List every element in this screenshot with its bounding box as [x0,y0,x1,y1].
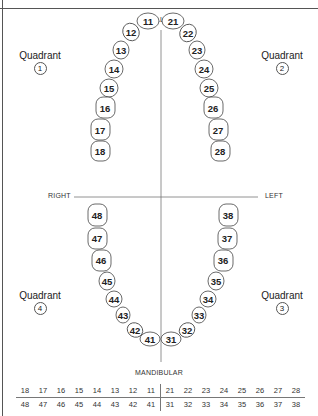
svg-text:14: 14 [109,64,120,75]
tooth-41[interactable]: 41 [140,332,160,346]
cell: 47 [34,398,52,412]
svg-text:35: 35 [211,276,222,287]
tooth-45[interactable]: 45 [99,272,115,290]
cell: 26 [251,384,269,398]
cell: 41 [142,398,161,412]
tooth-43[interactable]: 43 [116,307,130,323]
tooth-31[interactable]: 31 [161,332,181,346]
cell: 32 [179,398,197,412]
svg-text:22: 22 [183,28,194,39]
svg-text:46: 46 [96,255,107,266]
tooth-46[interactable]: 46 [92,250,111,271]
notation-upper-row: 18 17 16 15 14 13 12 11 21 22 23 24 25 2… [16,384,305,398]
cell: 11 [142,384,161,398]
cell: 24 [215,384,233,398]
tooth-34[interactable]: 34 [200,291,216,307]
svg-text:27: 27 [213,125,224,136]
svg-text:16: 16 [100,103,111,114]
svg-text:33: 33 [194,310,205,321]
tooth-33[interactable]: 33 [192,307,206,323]
svg-text:42: 42 [130,325,141,336]
svg-text:44: 44 [109,294,120,305]
tooth-15[interactable]: 15 [100,79,118,97]
cell: 34 [215,398,233,412]
cell: 43 [106,398,124,412]
cell: 31 [161,398,180,412]
cell: 27 [269,384,287,398]
tooth-26[interactable]: 26 [204,97,223,118]
tooth-28[interactable]: 28 [211,141,230,161]
svg-text:12: 12 [126,27,137,38]
cell: 25 [233,384,251,398]
tooth-44[interactable]: 44 [106,291,122,307]
cell: 28 [287,384,305,398]
cell: 16 [52,384,70,398]
svg-text:26: 26 [208,103,219,114]
cell: 12 [124,384,142,398]
cell: 14 [88,384,106,398]
cell: 18 [16,384,34,398]
svg-text:47: 47 [92,233,103,244]
tooth-36[interactable]: 36 [214,250,233,271]
tooth-21[interactable]: 21 [162,13,184,29]
svg-text:43: 43 [118,310,129,321]
svg-text:32: 32 [182,325,193,336]
cell: 23 [197,384,215,398]
fdi-notation-table: 18 17 16 15 14 13 12 11 21 22 23 24 25 2… [16,384,305,411]
svg-text:37: 37 [222,233,233,244]
tooth-35[interactable]: 35 [208,272,224,290]
tooth-16[interactable]: 16 [96,97,115,118]
cell: 48 [16,398,34,412]
svg-text:45: 45 [102,276,113,287]
cell: 46 [52,398,70,412]
tooth-11[interactable]: 11 [137,13,159,29]
tooth-13[interactable]: 13 [113,41,129,59]
cell: 38 [287,398,305,412]
cell: 42 [124,398,142,412]
tooth-17[interactable]: 17 [91,119,110,140]
svg-text:21: 21 [168,16,179,27]
svg-text:24: 24 [199,64,210,75]
svg-text:28: 28 [215,146,226,157]
cell: 36 [251,398,269,412]
cell: 45 [70,398,88,412]
svg-text:48: 48 [92,210,103,221]
tooth-37[interactable]: 37 [218,228,237,249]
tooth-47[interactable]: 47 [88,228,107,249]
tooth-23[interactable]: 23 [189,41,205,59]
notation-lower-row: 48 47 46 45 44 43 42 41 31 32 33 34 35 3… [16,398,305,412]
svg-text:11: 11 [143,16,154,27]
cell: 22 [179,384,197,398]
svg-text:38: 38 [223,210,234,221]
cell: 13 [106,384,124,398]
cell: 44 [88,398,106,412]
tooth-24[interactable]: 24 [195,60,213,78]
tooth-25[interactable]: 25 [200,79,218,97]
tooth-38[interactable]: 38 [219,204,238,226]
dental-arch-diagram: 11 12 13 14 15 16 17 18 21 22 23 24 25 2… [0,0,318,416]
tooth-18[interactable]: 18 [91,141,110,161]
svg-text:13: 13 [116,45,127,56]
svg-text:36: 36 [218,255,229,266]
svg-text:31: 31 [166,334,177,345]
cell: 17 [34,384,52,398]
svg-text:17: 17 [95,125,106,136]
cell: 35 [233,398,251,412]
svg-text:18: 18 [95,146,106,157]
svg-text:41: 41 [145,334,156,345]
cell: 21 [161,384,180,398]
cell: 33 [197,398,215,412]
tooth-14[interactable]: 14 [105,60,123,78]
tooth-27[interactable]: 27 [209,119,228,140]
svg-text:34: 34 [203,294,214,305]
svg-text:25: 25 [204,83,215,94]
tooth-48[interactable]: 48 [88,204,107,226]
cell: 37 [269,398,287,412]
svg-text:15: 15 [104,83,115,94]
cell: 15 [70,384,88,398]
svg-text:23: 23 [192,45,203,56]
